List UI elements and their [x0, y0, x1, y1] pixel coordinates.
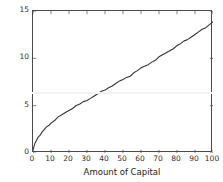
axis-ticks: [33, 11, 213, 153]
data-series-line: [33, 22, 213, 150]
x-tick-label: 60: [135, 155, 145, 163]
x-tick-label: 70: [153, 155, 163, 163]
x-tick-label: 40: [99, 155, 109, 163]
x-tick-label: 30: [81, 155, 91, 163]
y-tick-label: 15: [19, 6, 29, 14]
y-tick-label: 5: [24, 101, 29, 109]
plot-canvas: [33, 11, 213, 153]
x-tick-label: 80: [171, 155, 181, 163]
chart-figure: 0102030405060708090100 051015 Amount of …: [0, 0, 223, 182]
plot-area: [32, 10, 212, 152]
y-tick-label: 10: [19, 54, 29, 62]
x-axis-title: Amount of Capital: [32, 167, 212, 177]
x-tick-label: 0: [30, 155, 35, 163]
x-tick-label: 20: [63, 155, 73, 163]
x-tick-label: 10: [45, 155, 55, 163]
x-tick-label: 90: [189, 155, 199, 163]
x-tick-label: 100: [205, 155, 219, 163]
x-tick-label: 50: [117, 155, 127, 163]
y-tick-label: 0: [24, 148, 29, 156]
